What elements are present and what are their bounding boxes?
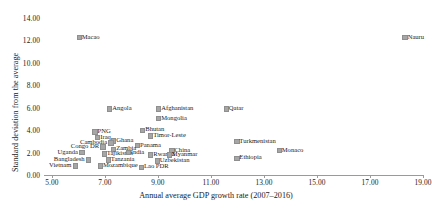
y-tick-label: 12.00 bbox=[0, 36, 40, 45]
x-axis-title: Annual average GDP growth rate (2007–201… bbox=[0, 191, 432, 200]
x-axis-line bbox=[44, 175, 423, 176]
data-point-label: Angola bbox=[112, 104, 131, 111]
scatter-chart: Standard deviation from the average Annu… bbox=[0, 0, 432, 214]
data-point-label: Lao PDR bbox=[144, 162, 169, 169]
data-point-label: Uganda bbox=[57, 148, 78, 155]
x-tick-label: 17.00 bbox=[350, 178, 390, 187]
data-point-label: Macao bbox=[82, 33, 100, 40]
x-tick-label: 13.00 bbox=[244, 178, 284, 187]
data-point-marker bbox=[100, 144, 105, 149]
data-point-marker bbox=[108, 140, 113, 145]
y-tick-label: 14.00 bbox=[0, 14, 40, 23]
x-tick-label: 9.00 bbox=[138, 178, 178, 187]
y-tick-label: 10.00 bbox=[0, 59, 40, 68]
x-tick-label: 7.00 bbox=[85, 178, 125, 187]
data-point-label: Afghanistan bbox=[161, 104, 193, 111]
data-point-label: Panama bbox=[140, 141, 161, 148]
data-point-marker bbox=[86, 157, 91, 162]
y-tick-label: 6.00 bbox=[0, 104, 40, 113]
data-point-label: Monaco bbox=[282, 146, 304, 153]
data-point-label: Nauru bbox=[408, 33, 424, 40]
data-point-label: Turkmenistan bbox=[239, 137, 275, 144]
x-tick-label: 19.00 bbox=[403, 178, 432, 187]
data-point-label: Ethiopia bbox=[239, 153, 261, 160]
data-point-label: Qatar bbox=[229, 104, 244, 111]
data-point-label: Mongolia bbox=[161, 114, 187, 121]
data-point-label: Timor-Leste bbox=[153, 131, 186, 138]
data-point-label: Mozambique bbox=[103, 161, 138, 168]
y-tick-label: 2.00 bbox=[0, 149, 40, 158]
data-point-label: India bbox=[131, 148, 145, 155]
data-point-marker bbox=[73, 163, 78, 168]
y-tick-label: 4.00 bbox=[0, 126, 40, 135]
data-point-label: Ghana bbox=[116, 136, 133, 143]
data-point-label: Vietnam bbox=[49, 161, 71, 168]
y-tick-label: 8.00 bbox=[0, 81, 40, 90]
x-tick-label: 15.00 bbox=[297, 178, 337, 187]
x-tick-label: 11.00 bbox=[191, 178, 231, 187]
x-tick-label: 5.00 bbox=[32, 178, 72, 187]
